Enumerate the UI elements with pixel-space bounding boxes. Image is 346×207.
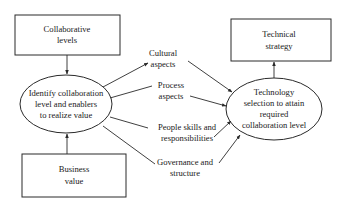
technical-strategy-label-line1: Technical — [262, 29, 296, 39]
technology-selection-label-line1: Technology — [254, 87, 295, 97]
governance-label-line2: structure — [170, 168, 200, 178]
process-label-line2: aspects — [159, 91, 184, 101]
collaborative-levels-label-line2: levels — [57, 35, 78, 45]
identify-label-line3: to realize value — [40, 110, 93, 120]
people-label-line1: People skills and — [158, 122, 217, 132]
technology-selection-label-line2: selection to attain — [244, 98, 305, 108]
line-identify-to-cultural — [103, 63, 148, 87]
cultural-label-line2: aspects — [151, 59, 176, 69]
technical-strategy-box — [231, 19, 331, 61]
identify-label-line2: level and enablers — [35, 99, 98, 109]
cultural-label-line1: Cultural — [149, 48, 178, 58]
technical-strategy-label-line2: strategy — [265, 41, 293, 51]
process-label-line1: Process — [158, 80, 185, 90]
identify-label-line1: Identify collaboration — [29, 88, 104, 98]
technical-strategy-node: Technical strategy — [231, 19, 331, 61]
enabler-governance: Governance and structure — [157, 157, 214, 178]
business-value-node: Business value — [22, 154, 126, 197]
arrow-cultural-to-technology — [188, 61, 232, 92]
technology-selection-label-line4: collaboration level — [242, 120, 307, 130]
people-label-line2: responsibilities — [161, 133, 214, 143]
enabler-people: People skills and responsibilities — [158, 122, 217, 143]
arrow-process-to-technology — [190, 96, 226, 106]
arrow-people-to-technology — [214, 121, 231, 137]
line-identify-to-process — [110, 86, 152, 98]
enabler-process: Process aspects — [158, 80, 185, 101]
technology-selection-label-line3: required — [260, 109, 289, 119]
governance-label-line1: Governance and — [157, 157, 214, 167]
business-value-label-line1: Business — [59, 164, 90, 174]
collaboration-diagram: Collaborative levels Identify collaborat… — [0, 0, 346, 207]
collaborative-levels-label-line1: Collaborative — [44, 24, 91, 34]
collaborative-levels-node: Collaborative levels — [15, 15, 120, 55]
technology-selection-node: Technology selection to attain required … — [226, 78, 322, 140]
line-identify-to-people — [110, 117, 148, 128]
business-value-label-line2: value — [65, 176, 84, 186]
enabler-cultural: Cultural aspects — [149, 48, 178, 69]
arrow-governance-to-technology — [219, 135, 240, 163]
identify-collaboration-node: Identify collaboration level and enabler… — [20, 75, 112, 133]
